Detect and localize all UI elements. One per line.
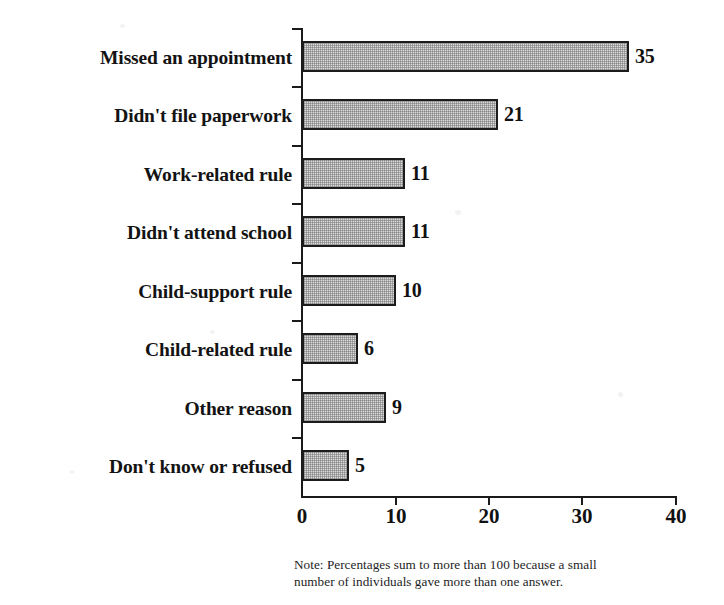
x-axis-tick-label-0: 0 bbox=[281, 504, 323, 529]
horizontal-bar-chart: Missed an appointment Didn't file paperw… bbox=[0, 0, 724, 605]
bar-didnt-attend-school[interactable] bbox=[302, 216, 405, 247]
category-axis-tick bbox=[292, 262, 301, 264]
category-label-missed-an-appointment: Missed an appointment bbox=[6, 47, 292, 69]
bar-child-related-rule[interactable] bbox=[302, 333, 358, 364]
footnote-line-2: number of individuals gave more than one… bbox=[294, 573, 694, 590]
chart-footnote: Note: Percentages sum to more than 100 b… bbox=[294, 556, 694, 590]
footnote-line-1: Note: Percentages sum to more than 100 b… bbox=[294, 556, 694, 573]
category-label-dont-know-or-refused: Don't know or refused bbox=[6, 456, 292, 478]
bar-value-other-reason: 9 bbox=[392, 396, 402, 419]
bar-didnt-file-paperwork[interactable] bbox=[302, 99, 498, 130]
category-label-work-related-rule: Work-related rule bbox=[6, 164, 292, 186]
scan-speckle bbox=[618, 392, 623, 397]
scan-speckle bbox=[455, 210, 461, 215]
bar-other-reason[interactable] bbox=[302, 392, 386, 423]
bar-dont-know-or-refused[interactable] bbox=[302, 450, 349, 481]
value-axis-tick-0 bbox=[301, 488, 303, 498]
category-label-child-support-rule: Child-support rule bbox=[6, 281, 292, 303]
bar-value-child-support-rule: 10 bbox=[402, 279, 422, 302]
bar-child-support-rule[interactable] bbox=[302, 275, 396, 306]
category-axis-tick bbox=[292, 203, 301, 205]
bar-value-didnt-file-paperwork: 21 bbox=[504, 103, 524, 126]
x-axis-tick-label-10: 10 bbox=[375, 504, 417, 529]
x-axis-tick-label-20: 20 bbox=[468, 504, 510, 529]
bar-value-didnt-attend-school: 11 bbox=[411, 220, 430, 243]
bar-value-dont-know-or-refused: 5 bbox=[355, 454, 365, 477]
bar-value-child-related-rule: 6 bbox=[364, 337, 374, 360]
category-label-child-related-rule: Child-related rule bbox=[6, 339, 292, 361]
x-axis-tick-label-40: 40 bbox=[655, 504, 697, 529]
bar-missed-an-appointment[interactable] bbox=[302, 41, 629, 72]
bar-value-work-related-rule: 11 bbox=[411, 162, 430, 185]
category-axis-tick bbox=[292, 28, 301, 30]
category-axis-tick bbox=[292, 86, 301, 88]
scan-speckle bbox=[210, 330, 215, 334]
category-axis-tick bbox=[292, 145, 301, 147]
category-label-other-reason: Other reason bbox=[6, 398, 292, 420]
category-label-didnt-file-paperwork: Didn't file paperwork bbox=[6, 105, 292, 127]
category-label-didnt-attend-school: Didn't attend school bbox=[6, 222, 292, 244]
bar-value-missed-an-appointment: 35 bbox=[635, 45, 655, 68]
bar-work-related-rule[interactable] bbox=[302, 158, 405, 189]
category-axis-tick bbox=[292, 379, 301, 381]
category-axis-tick bbox=[292, 320, 301, 322]
scan-speckle bbox=[120, 24, 125, 28]
x-axis-tick-label-30: 30 bbox=[561, 504, 603, 529]
category-axis-tick bbox=[292, 437, 301, 439]
